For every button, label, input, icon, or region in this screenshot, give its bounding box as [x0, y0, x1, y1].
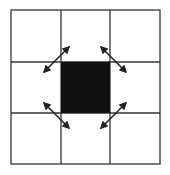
center-cell: [61, 62, 110, 113]
neighbor-grid-diagram: [0, 0, 170, 175]
